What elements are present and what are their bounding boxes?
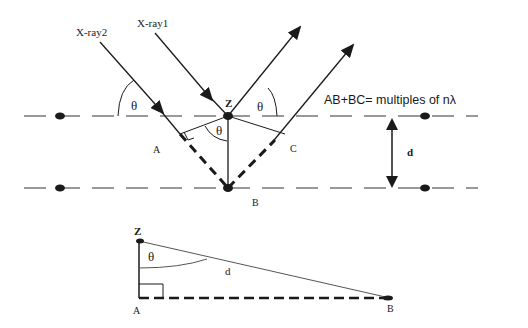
triangle-d-label: d [225,265,231,277]
xray2-incident [100,42,228,188]
atom [55,185,65,192]
bragg-diagram: X-ray2 X-ray1 θ θ θ Z A C B AB+BC= multi… [0,0,528,328]
d-spacing-label: d [407,146,413,158]
theta-incident-label: θ [131,98,137,113]
point-z-label: Z [225,97,232,109]
xray2-label: X-ray2 [76,26,107,38]
triangle-atom-z [136,239,144,244]
xray1-label: X-ray1 [137,17,168,29]
xray1-incident [155,33,228,116]
triangle-z-label: Z [134,225,141,237]
triangle-theta-label: θ [148,249,154,264]
theta-inner-label: θ [216,123,222,138]
triangle-a-label: A [133,305,141,316]
theta-reflected-label: θ [257,99,263,114]
atom [55,113,65,120]
triangle-b-label: B [387,303,394,314]
point-a-label: A [153,144,161,155]
triangle-atom-b [383,296,393,301]
equation-label: AB+BC= multiples of nλ [324,93,457,107]
atoms [55,112,430,192]
atom [420,113,430,120]
point-c-label: C [290,143,297,154]
d-spacing-arrow [386,118,398,188]
xray1-reflected [228,27,300,116]
triangle-inset [136,239,393,301]
point-b-label: B [252,197,259,208]
atom [420,185,430,192]
